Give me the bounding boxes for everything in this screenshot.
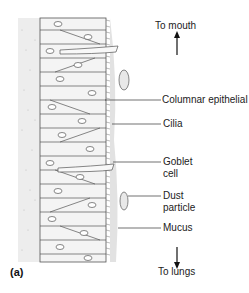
direction-to-mouth: To mouth xyxy=(155,20,196,32)
label-dust-particle: particle xyxy=(163,202,195,214)
epithelium-illustration xyxy=(0,0,249,293)
respiratory-epithelium-diagram: To mouth Columnar epithelial cell Cilia … xyxy=(0,0,249,293)
direction-to-lungs: To lungs xyxy=(158,266,195,278)
label-goblet-cell: cell xyxy=(163,168,178,180)
label-columnar-epithelial-cell: Columnar epithelial cell xyxy=(162,94,249,106)
label-mucus: Mucus xyxy=(163,222,192,234)
label-goblet: Goblet xyxy=(163,156,192,168)
label-dust: Dust xyxy=(163,190,184,202)
label-cilia: Cilia xyxy=(163,118,182,130)
panel-label: (a) xyxy=(10,266,23,278)
